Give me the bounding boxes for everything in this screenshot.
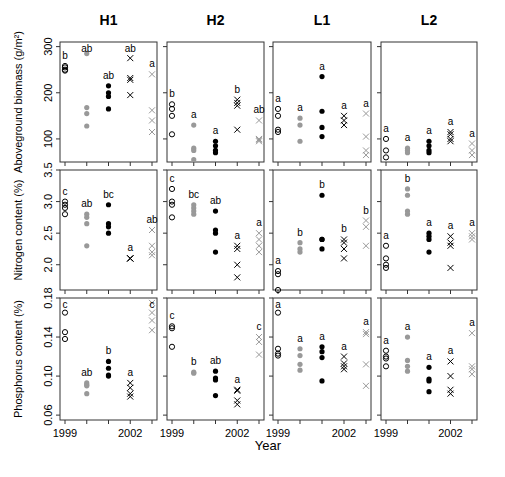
y-tick-label: 0.18 bbox=[42, 287, 54, 308]
data-point bbox=[469, 230, 475, 236]
significance-letter: a bbox=[213, 125, 219, 136]
data-point bbox=[234, 401, 240, 407]
significance-letter: a bbox=[341, 100, 347, 111]
significance-letter: c bbox=[170, 310, 175, 321]
significance-letter: ab bbox=[81, 198, 93, 209]
significance-letter: ab bbox=[253, 104, 265, 115]
panel-grid: H1H2L1L2Aboveground biomass (g/m²)100200… bbox=[0, 0, 505, 477]
y-tick-label: 3.0 bbox=[42, 194, 54, 209]
data-point bbox=[84, 383, 89, 388]
data-point bbox=[106, 202, 111, 207]
data-point bbox=[426, 250, 431, 255]
data-point bbox=[383, 155, 388, 160]
significance-letter: b bbox=[405, 173, 411, 184]
data-point bbox=[319, 237, 324, 242]
data-point bbox=[363, 218, 369, 224]
data-point bbox=[213, 139, 218, 144]
data-point bbox=[191, 122, 196, 127]
significance-letter: b bbox=[234, 84, 240, 95]
y-tick-label: 0.14 bbox=[42, 326, 54, 347]
data-point bbox=[363, 111, 369, 117]
panel-frame bbox=[381, 170, 477, 290]
data-point bbox=[469, 236, 475, 242]
data-point bbox=[405, 212, 410, 217]
significance-letter: ab bbox=[210, 195, 222, 206]
data-point bbox=[256, 117, 262, 123]
data-point bbox=[297, 353, 302, 358]
data-point bbox=[363, 243, 369, 249]
data-point bbox=[297, 368, 302, 373]
data-point bbox=[319, 125, 324, 130]
data-point bbox=[256, 339, 262, 345]
data-point bbox=[448, 233, 454, 239]
significance-letter: ab bbox=[103, 70, 115, 81]
data-point bbox=[106, 373, 111, 378]
significance-letter: a bbox=[426, 217, 432, 228]
significance-letter: a bbox=[319, 331, 325, 342]
data-point bbox=[106, 224, 111, 229]
significance-letter: a bbox=[469, 217, 475, 228]
data-point bbox=[319, 378, 324, 383]
data-point bbox=[363, 383, 369, 389]
data-point bbox=[84, 221, 89, 226]
significance-letter: a bbox=[234, 230, 240, 241]
data-point bbox=[106, 231, 111, 236]
x-tick-label: 2002 bbox=[118, 427, 142, 439]
data-point bbox=[149, 249, 155, 255]
significance-letter: a bbox=[405, 132, 411, 143]
data-point bbox=[297, 116, 302, 121]
data-point bbox=[469, 152, 475, 158]
data-point bbox=[234, 243, 240, 249]
significance-letter: a bbox=[275, 93, 281, 104]
data-point bbox=[213, 250, 218, 255]
data-point bbox=[469, 363, 475, 369]
data-point bbox=[319, 109, 324, 114]
data-point bbox=[341, 360, 347, 366]
significance-letter: a bbox=[405, 321, 411, 332]
data-point bbox=[341, 246, 347, 252]
data-point bbox=[383, 136, 388, 141]
significance-letter: a bbox=[469, 317, 475, 328]
y-tick-label: 100 bbox=[42, 130, 54, 148]
data-point bbox=[213, 150, 218, 155]
y-axis-label: Nitrogen content (%) bbox=[12, 180, 24, 281]
data-point bbox=[127, 55, 133, 61]
significance-letter: ab bbox=[146, 214, 158, 225]
significance-letter: ab bbox=[125, 43, 137, 54]
significance-letter: a bbox=[149, 58, 155, 69]
data-point bbox=[84, 391, 89, 396]
significance-letter: c bbox=[170, 173, 175, 184]
data-point bbox=[426, 139, 431, 144]
data-point bbox=[234, 387, 240, 393]
data-point bbox=[297, 240, 302, 245]
data-point bbox=[127, 255, 133, 261]
data-point bbox=[149, 317, 155, 323]
significance-letter: b bbox=[363, 205, 369, 216]
panel-column-title: H2 bbox=[207, 12, 225, 28]
data-point bbox=[213, 231, 218, 236]
data-point bbox=[341, 354, 347, 360]
data-point bbox=[448, 373, 454, 379]
significance-letter: a bbox=[383, 123, 389, 134]
data-point bbox=[405, 358, 410, 363]
significance-letter: a bbox=[363, 316, 369, 327]
significance-letter: a bbox=[319, 61, 325, 72]
significance-letter: c bbox=[150, 299, 155, 310]
significance-letter: ab bbox=[210, 355, 222, 366]
data-point bbox=[297, 346, 302, 351]
significance-letter: a bbox=[426, 125, 432, 136]
x-axis-label: Year bbox=[255, 438, 282, 453]
data-point bbox=[213, 393, 218, 398]
data-point bbox=[149, 310, 155, 316]
data-point bbox=[297, 362, 302, 367]
data-point bbox=[106, 83, 111, 88]
data-point bbox=[191, 157, 196, 162]
significance-letter: a bbox=[234, 374, 240, 385]
data-point bbox=[405, 364, 410, 369]
y-tick-label: 0.10 bbox=[42, 365, 54, 386]
data-point bbox=[191, 148, 196, 153]
data-point bbox=[319, 193, 324, 198]
data-point bbox=[297, 250, 302, 255]
significance-letter: a bbox=[426, 351, 432, 362]
data-point bbox=[213, 377, 218, 382]
